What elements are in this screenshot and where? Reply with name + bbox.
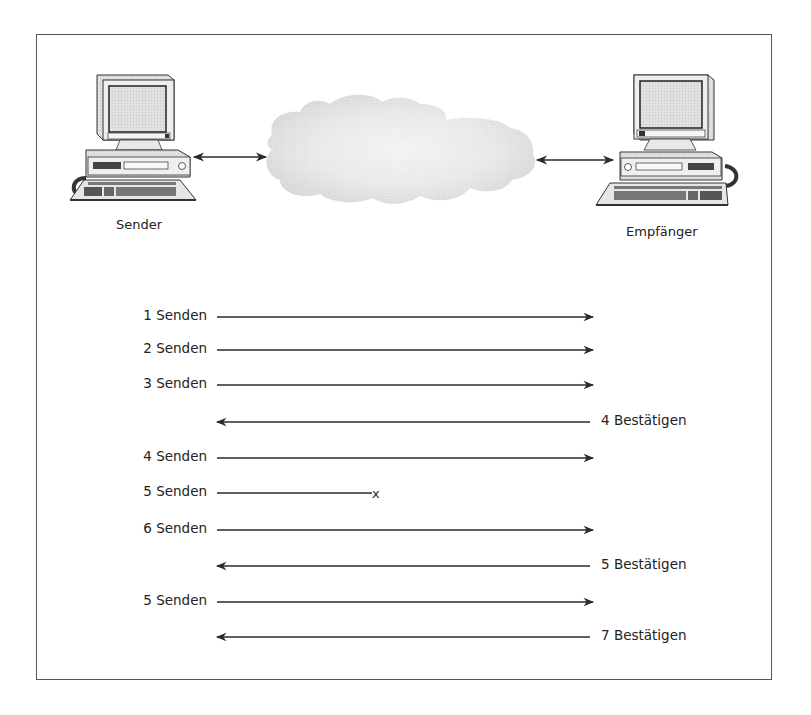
lost-packet-marker-icon: x [372, 486, 380, 501]
sequence-label: 7 Bestätigen [601, 627, 687, 643]
diagram-canvas: x [0, 0, 811, 715]
receiver-label: Empfänger [626, 224, 698, 239]
sequence-label: 6 Senden [127, 520, 207, 536]
sequence-label: 3 Senden [127, 375, 207, 391]
sequence-label: 5 Senden [127, 483, 207, 499]
receiver-computer-icon [596, 75, 736, 205]
sequence-label: 2 Senden [127, 340, 207, 356]
sequence-label: 4 Senden [127, 448, 207, 464]
sequence-arrows: x [217, 317, 593, 637]
sender-label: Sender [116, 217, 162, 232]
sequence-label: 1 Senden [127, 307, 207, 323]
sequence-label: 4 Bestätigen [601, 412, 687, 428]
sequence-label: 5 Senden [127, 592, 207, 608]
sender-computer-icon [70, 75, 196, 200]
network-cloud-icon [266, 95, 535, 204]
sequence-label: 5 Bestätigen [601, 556, 687, 572]
